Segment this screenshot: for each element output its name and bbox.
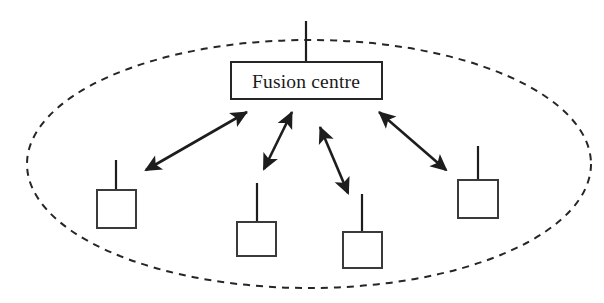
link-fusion-node-3 [320, 127, 348, 193]
link-fusion-node-4 [379, 112, 446, 170]
sensor-node-3-box[interactable] [343, 232, 382, 268]
link-fusion-node-2 [264, 112, 292, 169]
sensor-node-4-box[interactable] [458, 180, 498, 218]
link-fusion-node-1 [146, 112, 247, 170]
sensor-node-1[interactable] [97, 160, 136, 228]
sensor-node-1-box[interactable] [97, 190, 136, 228]
sensor-node-2-box[interactable] [237, 222, 276, 256]
fusion-centre-diagram: Fusion centre [0, 0, 604, 303]
sensor-node-3[interactable] [343, 194, 382, 268]
sensor-node-2[interactable] [237, 183, 276, 256]
sensor-node-4[interactable] [458, 146, 498, 218]
fusion-centre-node[interactable]: Fusion centre [231, 21, 382, 99]
diagram-canvas: Fusion centre [0, 0, 604, 303]
links-group [146, 112, 446, 193]
fusion-centre-label: Fusion centre [252, 71, 360, 92]
